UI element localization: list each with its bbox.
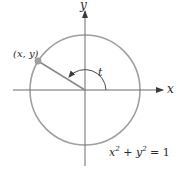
point-label: (x, y) bbox=[13, 49, 38, 59]
y-axis-label: y bbox=[80, 0, 87, 11]
equation-plus: + bbox=[120, 146, 136, 159]
angle-label: t bbox=[98, 67, 102, 78]
radius-line bbox=[38, 61, 85, 90]
circle-equation: x2 + y2 = 1 bbox=[109, 146, 170, 158]
x-axis-label: x bbox=[167, 83, 174, 95]
equation-rhs: = 1 bbox=[147, 146, 170, 159]
